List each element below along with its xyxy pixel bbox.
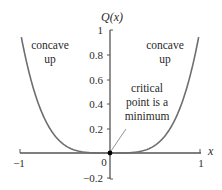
y-tick-label: 0.6 — [89, 74, 103, 86]
x-axis-title: x — [207, 144, 214, 158]
annotation-concave-up-right: concave up — [146, 39, 184, 66]
x-tick-label: 0 — [101, 156, 107, 168]
annotation-concave-up-left: concave up — [31, 39, 69, 66]
annotation-text: concave — [31, 39, 69, 51]
y-tick-label: 0.4 — [89, 98, 103, 110]
critical-point-marker — [108, 151, 113, 156]
x-tick-label: −1 — [13, 157, 25, 169]
chart-canvas: 1 0.8 0.6 0.4 0.2 −0.2 Q(x) −1 0 1 x con… — [0, 0, 222, 190]
critical-point-leader-line — [111, 129, 126, 151]
annotation-critical-point: critical point is a minimum — [125, 82, 170, 122]
annotation-text: up — [44, 53, 56, 66]
annotation-text: concave — [146, 39, 184, 51]
y-tick-label: 1 — [98, 24, 104, 36]
y-tick-label: −0.2 — [83, 172, 103, 184]
annotation-text: minimum — [125, 110, 170, 122]
annotation-text: critical — [131, 82, 163, 94]
x-tick-label: 1 — [198, 157, 204, 169]
y-axis-title: Q(x) — [101, 10, 123, 24]
y-tick-label: 0.8 — [89, 49, 103, 61]
y-axis — [107, 30, 113, 179]
annotation-text: point is a — [126, 96, 168, 109]
annotation-text: up — [159, 53, 171, 66]
y-tick-label: 0.2 — [89, 123, 103, 135]
